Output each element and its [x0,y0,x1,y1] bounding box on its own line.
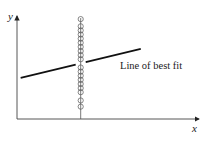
x-axis-label: x [191,122,197,134]
best-fit-annotation: Line of best fit [120,60,182,71]
best-fit-line-segment [21,65,76,78]
y-axis-label: y [7,10,13,22]
chart: y x Line of best fit [0,0,211,142]
